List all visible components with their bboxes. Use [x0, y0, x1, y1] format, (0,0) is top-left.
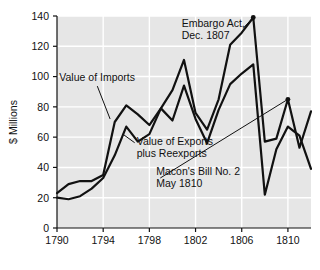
- annotation-value-of-imports: Value of Imports: [59, 71, 135, 83]
- x-axis-tick-labels: 179017941798180218061810: [45, 234, 299, 246]
- chart-figure: 020406080100120140 179017941798180218061…: [0, 0, 320, 270]
- y-tick-label: 120: [31, 40, 49, 52]
- y-tick-label: 20: [37, 192, 49, 204]
- annotation-point-marker: [286, 97, 291, 102]
- y-tick-label: 100: [31, 70, 49, 82]
- annotation-value-of-exports-plus-reexports: Value of Exportsplus Reexports: [137, 135, 213, 159]
- y-tick-label: 60: [37, 131, 49, 143]
- y-tick-label: 140: [31, 10, 49, 22]
- x-tick-label: 1798: [138, 234, 162, 246]
- y-axis-title: $ Millions: [7, 100, 19, 144]
- x-tick-label: 1802: [184, 234, 208, 246]
- x-tick-label: 1790: [45, 234, 69, 246]
- x-tick-label: 1810: [276, 234, 300, 246]
- annotation-point-marker: [251, 15, 256, 20]
- imports-exports-line-chart: 020406080100120140 179017941798180218061…: [0, 0, 320, 270]
- y-tick-label: 40: [37, 161, 49, 173]
- y-tick-label: 0: [43, 222, 49, 234]
- x-tick-label: 1806: [230, 234, 254, 246]
- y-tick-label: 80: [37, 101, 49, 113]
- x-tick-label: 1794: [92, 234, 116, 246]
- plot-background: [57, 16, 311, 228]
- y-axis-tick-labels: 020406080100120140: [31, 10, 49, 234]
